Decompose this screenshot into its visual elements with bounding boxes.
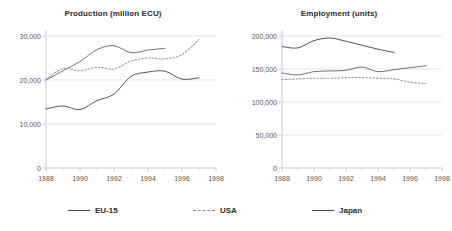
legend-label-japan: Japan <box>339 206 362 215</box>
y-tick-label: 30,000 <box>20 33 42 40</box>
y-tick-label: 0 <box>273 165 277 172</box>
series-line-usa <box>46 40 199 80</box>
y-tick-label: 10,000 <box>20 121 42 128</box>
y-tick-label: 150,000 <box>252 66 277 73</box>
y-tick-label: 20,000 <box>20 77 42 84</box>
chart-panel-employment: Employment (units) 050,000100,000150,000… <box>226 0 452 196</box>
series-line-japan <box>282 38 394 53</box>
x-tick-label: 1992 <box>338 175 354 182</box>
y-tick-label: 100,000 <box>252 99 277 106</box>
figure-container: Production (million ECU) 010,00020,00030… <box>0 0 452 231</box>
legend-item-eu-15[interactable]: EU-15 <box>68 203 118 217</box>
legend-item-usa[interactable]: USA <box>193 203 237 217</box>
line-solid-icon <box>312 210 334 211</box>
x-tick-label: 1996 <box>174 175 190 182</box>
series-line-usa <box>282 77 426 83</box>
plot-area-production: 010,00020,00030,000198819901992199419961… <box>0 0 226 196</box>
series-line-japan <box>46 71 199 110</box>
chart-panel-production: Production (million ECU) 010,00020,00030… <box>0 0 226 196</box>
y-tick-label: 200,000 <box>252 33 277 40</box>
y-tick-label: 50,000 <box>256 132 278 139</box>
x-tick-label: 1988 <box>38 175 54 182</box>
legend-label-usa: USA <box>220 206 237 215</box>
x-tick-label: 1996 <box>402 175 418 182</box>
series-line-eu-15 <box>46 46 165 80</box>
series-line-eu-15 <box>282 66 426 75</box>
x-tick-label: 1992 <box>106 175 122 182</box>
plot-area-employment: 050,000100,000150,000200,000198819901992… <box>226 0 452 196</box>
x-tick-label: 1990 <box>306 175 322 182</box>
figure-legend: EU-15 USA Japan <box>0 198 452 231</box>
x-tick-label: 1998 <box>434 175 450 182</box>
legend-label-eu-15: EU-15 <box>95 206 118 215</box>
line-solid-icon <box>68 210 90 211</box>
x-tick-label: 1988 <box>274 175 290 182</box>
x-tick-label: 1994 <box>140 175 156 182</box>
legend-item-japan[interactable]: Japan <box>312 203 362 217</box>
line-dashed-icon <box>193 210 215 211</box>
x-tick-label: 1998 <box>208 175 224 182</box>
x-tick-label: 1994 <box>370 175 386 182</box>
x-tick-label: 1990 <box>72 175 88 182</box>
y-tick-label: 0 <box>37 165 41 172</box>
